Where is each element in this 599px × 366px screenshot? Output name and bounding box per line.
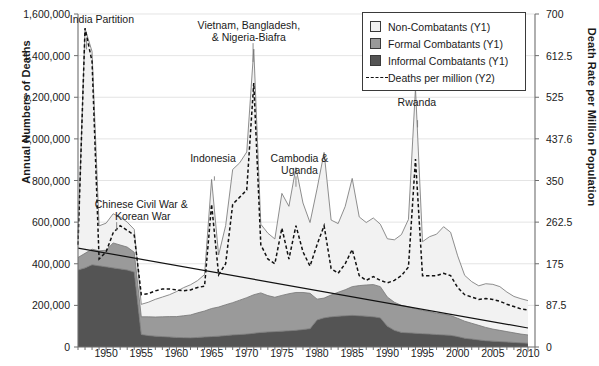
legend-swatch-icon bbox=[370, 55, 381, 66]
legend-swatch-icon bbox=[370, 38, 381, 49]
chart-annotation: India Partition bbox=[22, 13, 182, 25]
chart-root: Annual Numbers of Deaths Death Rate per … bbox=[0, 0, 599, 366]
legend-item[interactable]: Non-Combatants (Y1) bbox=[370, 18, 519, 35]
legend-label: Informal Combatants (Y1) bbox=[388, 55, 508, 67]
legend-label: Deaths per million (Y2) bbox=[388, 72, 495, 84]
legend-label: Formal Combatants (Y1) bbox=[388, 38, 503, 50]
chart-annotation: Rwanda bbox=[337, 96, 497, 108]
legend-item[interactable]: Formal Combatants (Y1) bbox=[370, 35, 519, 52]
chart-legend: Non-Combatants (Y1)Formal Combatants (Y1… bbox=[362, 12, 526, 91]
chart-annotation: Vietnam, Bangladesh, & Nigeria-Biafra bbox=[169, 19, 329, 43]
legend-label: Non-Combatants (Y1) bbox=[388, 21, 490, 33]
chart-annotation: Cambodia & Uganda bbox=[219, 152, 379, 176]
legend-item[interactable]: Informal Combatants (Y1) bbox=[370, 52, 519, 69]
legend-swatch-icon bbox=[370, 21, 381, 32]
legend-item[interactable]: Deaths per million (Y2) bbox=[370, 69, 519, 86]
legend-dashed-line-icon bbox=[370, 72, 381, 83]
chart-annotation: Chinese Civil War & Korean War bbox=[61, 198, 221, 222]
